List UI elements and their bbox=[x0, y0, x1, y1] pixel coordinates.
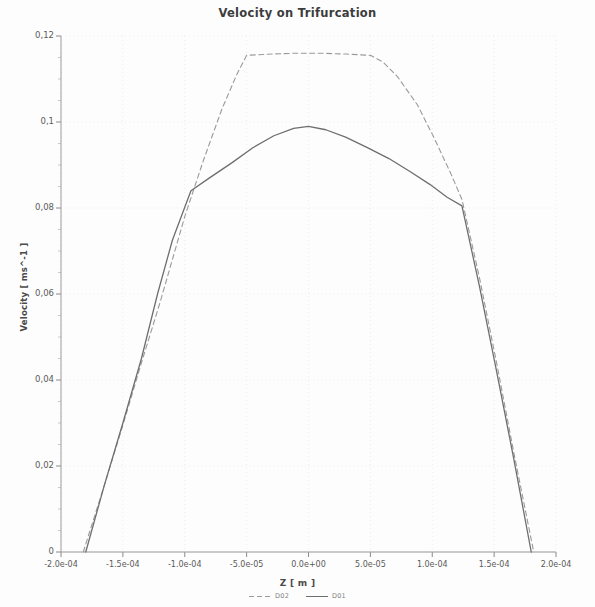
x-tick-label: 5.0e-05 bbox=[335, 560, 405, 569]
x-axis-tick-labels: -2.0e-04-1.5e-04-1.0e-04-5.0e-050.0e+005… bbox=[0, 0, 595, 607]
x-axis-label: Z [ m ] bbox=[0, 578, 595, 588]
legend-label: D01 bbox=[332, 592, 346, 600]
x-tick-label: -5.0e-05 bbox=[212, 560, 282, 569]
x-tick-label: -2.0e-04 bbox=[26, 560, 96, 569]
legend-item-d02: D02 bbox=[249, 592, 289, 600]
legend-label: D02 bbox=[275, 592, 289, 600]
chart-figure: Velocity on Trifurcation 00,020,040,060,… bbox=[0, 0, 595, 607]
x-tick-label: 1.5e-04 bbox=[459, 560, 529, 569]
legend-swatch-dashed-icon bbox=[249, 594, 271, 599]
legend-item-d01: D01 bbox=[306, 592, 346, 600]
x-tick-label: -1.5e-04 bbox=[88, 560, 158, 569]
y-axis-label: Velocity [ ms^-1 ] bbox=[19, 227, 29, 347]
x-tick-label: 0.0e+00 bbox=[274, 560, 344, 569]
x-tick-label: -1.0e-04 bbox=[150, 560, 220, 569]
x-tick-label: 1.0e-04 bbox=[397, 560, 467, 569]
legend-swatch-solid-icon bbox=[306, 594, 328, 599]
chart-legend: D02 D01 bbox=[0, 592, 595, 600]
x-tick-label: 2.0e-04 bbox=[521, 560, 591, 569]
